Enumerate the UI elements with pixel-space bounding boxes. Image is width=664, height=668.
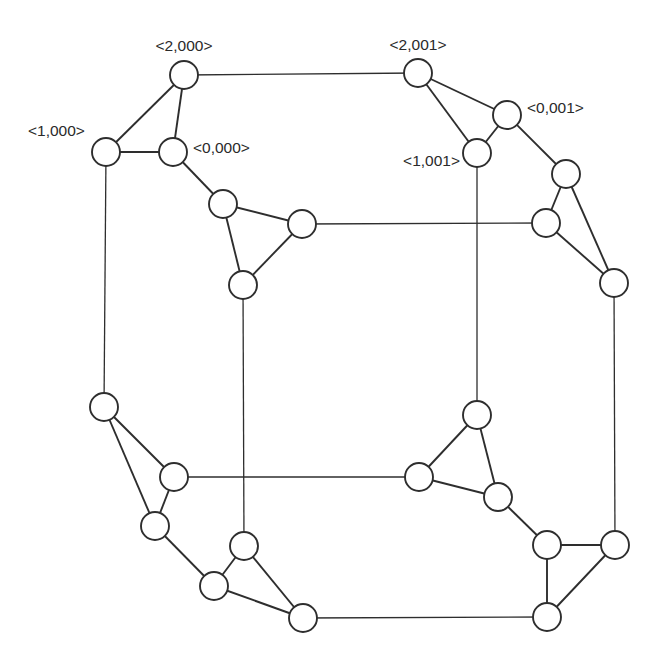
- node-label-n0001: <0,001>: [527, 99, 584, 116]
- node-label-n2001: <2,001>: [390, 36, 447, 53]
- node-circle-e_t: [463, 401, 491, 429]
- node-label-n2000: <2,000>: [156, 37, 213, 54]
- node-circle-n2001: [404, 59, 432, 87]
- node-circle-n1001: [463, 139, 491, 167]
- edge-a_r-b_l: [302, 223, 546, 224]
- node-layer: [90, 59, 629, 632]
- node-label-n0000: <0,000>: [193, 139, 250, 156]
- node-circle-e_r: [484, 483, 512, 511]
- node-circle-f_b: [533, 603, 561, 631]
- node-circle-c_r: [160, 463, 188, 491]
- node-circle-n0001: [493, 101, 521, 129]
- node-circle-d_r: [289, 604, 317, 632]
- node-circle-c_t: [90, 393, 118, 421]
- node-circle-n2000: [170, 61, 198, 89]
- node-label-n1000: <1,000>: [28, 122, 85, 139]
- node-circle-f_tl: [533, 531, 561, 559]
- node-circle-b_b: [600, 269, 628, 297]
- node-circle-c_b: [141, 512, 169, 540]
- node-circle-f_r: [601, 531, 629, 559]
- edge-c_t-c_b: [104, 407, 155, 526]
- edge-b_t-b_b: [566, 174, 614, 283]
- node-circle-b_l: [532, 209, 560, 237]
- node-circle-b_t: [552, 160, 580, 188]
- node-circle-d_l: [200, 572, 228, 600]
- node-circle-a_r: [288, 210, 316, 238]
- edge-d_r-f_b: [303, 617, 547, 618]
- node-circle-a_b: [229, 271, 257, 299]
- edge-b_b-f_r: [614, 283, 615, 545]
- node-circle-e_l: [405, 463, 433, 491]
- edge-n1000-c_t: [104, 152, 106, 407]
- edge-a_b-d_t: [243, 285, 244, 546]
- edge-n2000-n2001: [184, 73, 418, 75]
- node-circle-d_t: [230, 532, 258, 560]
- node-circle-n1000: [92, 138, 120, 166]
- node-circle-a_tl: [209, 190, 237, 218]
- node-label-n1001: <1,001>: [403, 152, 460, 169]
- cube-connected-cycles-diagram: <2,000><1,000><0,000><2,001><0,001><1,00…: [0, 0, 664, 668]
- node-circle-n0000: [159, 138, 187, 166]
